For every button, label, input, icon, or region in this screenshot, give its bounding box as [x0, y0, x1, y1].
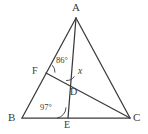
vertex-label-E: E — [64, 120, 70, 130]
segments-group — [22, 18, 130, 118]
segment-AE — [68, 18, 76, 118]
vertex-label-A: A — [72, 2, 80, 13]
geometry-canvas — [0, 0, 148, 134]
angle-label-at-F: 86° — [56, 56, 68, 65]
angle-label-at-E: 97° — [40, 103, 52, 112]
angle-arc-at-F — [53, 66, 56, 73]
angle-arc-at-D — [67, 77, 75, 81]
vertex-label-F: F — [32, 66, 38, 76]
vertex-label-D: D — [70, 87, 77, 97]
vertex-label-C: C — [133, 112, 140, 123]
geometry-figure: A B C D E F 86° x 97° — [0, 0, 148, 134]
angle-label-at-D: x — [78, 67, 82, 77]
vertex-label-B: B — [8, 112, 15, 123]
angle-arc-at-E — [58, 108, 67, 118]
